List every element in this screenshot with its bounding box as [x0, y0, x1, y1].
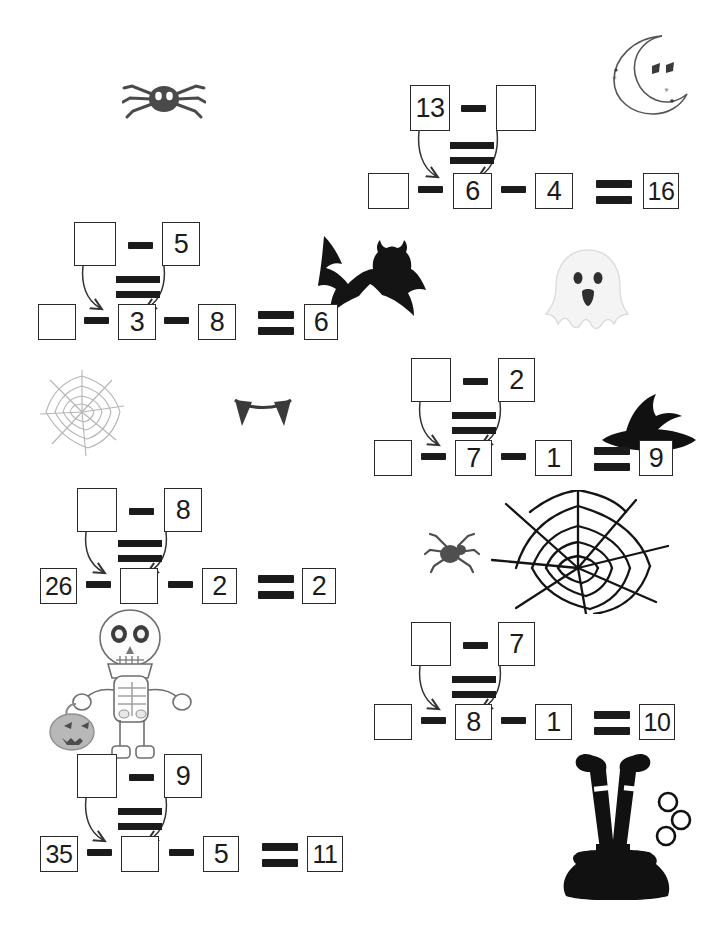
minus-icon	[168, 581, 193, 588]
minus-icon	[128, 242, 153, 249]
problem-5-bottom-third-box[interactable]: 1	[535, 704, 572, 740]
problem-6-top-left-box[interactable]	[77, 754, 117, 798]
fangs-icon	[232, 396, 294, 432]
problem-4-bottom-first-box[interactable]: 26	[40, 568, 77, 604]
problem-1: 13 6 4 16	[368, 84, 678, 209]
equals-icon	[116, 276, 160, 298]
minus-icon	[129, 774, 154, 781]
equals-icon	[596, 180, 632, 204]
equals-icon	[450, 142, 494, 164]
equals-icon	[452, 412, 496, 434]
minus-icon	[463, 642, 488, 649]
minus-icon	[84, 317, 109, 324]
cauldron-icon	[548, 740, 700, 900]
minus-icon	[421, 717, 446, 724]
spider-small-icon	[424, 528, 480, 580]
spider-icon	[122, 72, 206, 124]
problem-6-bottom-third-box[interactable]: 5	[203, 836, 239, 872]
problem-1-top-left-box[interactable]: 13	[410, 85, 450, 131]
problem-6-bottom-first-box[interactable]: 35	[40, 836, 78, 872]
minus-icon	[461, 105, 486, 112]
problem-2-top-right-box[interactable]: 5	[162, 222, 200, 266]
problem-1-top-right-box[interactable]	[496, 85, 536, 131]
problem-2-bottom-third-box[interactable]: 8	[198, 304, 236, 340]
problem-4-bottom-third-box[interactable]: 2	[202, 568, 237, 604]
problem-5-bottom-first-box[interactable]	[374, 704, 412, 740]
problem-2-top-left-box[interactable]	[74, 222, 116, 266]
minus-icon	[463, 378, 488, 385]
equals-icon	[452, 676, 496, 698]
problem-2-result-box[interactable]: 6	[304, 304, 338, 340]
equals-icon	[262, 843, 298, 867]
equals-icon	[594, 447, 630, 471]
problem-6-top-right-box[interactable]: 9	[164, 754, 202, 798]
problem-5-top-right-box[interactable]: 7	[498, 622, 535, 666]
problem-3-top-left-box[interactable]	[411, 358, 451, 402]
problem-5-result-box[interactable]: 10	[639, 704, 675, 740]
problem-3: 2 7 1 9	[374, 358, 674, 476]
problem-2-bottom-first-box[interactable]	[38, 304, 76, 340]
equals-icon	[258, 575, 294, 599]
minus-icon	[418, 186, 443, 193]
problem-3-result-box[interactable]: 9	[639, 440, 673, 476]
minus-icon	[86, 581, 111, 588]
minus-icon	[169, 849, 194, 856]
problem-5-top-left-box[interactable]	[411, 622, 451, 666]
minus-icon	[87, 849, 112, 856]
minus-icon	[164, 317, 189, 324]
problem-3-bottom-middle-box[interactable]: 7	[455, 440, 492, 476]
problem-4-result-box[interactable]: 2	[302, 568, 336, 604]
minus-icon	[501, 453, 526, 460]
problem-3-top-right-box[interactable]: 2	[498, 358, 535, 402]
ghost-icon	[536, 244, 640, 346]
equals-icon	[118, 540, 162, 562]
problem-4: 8 26 2 2	[40, 488, 330, 604]
minus-icon	[501, 186, 526, 193]
minus-icon	[501, 717, 526, 724]
problem-5: 7 8 1 10	[374, 622, 674, 740]
spiderweb-small-icon	[36, 368, 128, 456]
equals-icon	[594, 711, 630, 735]
problem-3-bottom-first-box[interactable]	[374, 440, 412, 476]
worksheet-page: ✳ ✳	[0, 0, 718, 945]
problem-4-top-left-box[interactable]	[77, 488, 117, 532]
problem-1-bottom-first-box[interactable]	[368, 173, 409, 209]
equals-icon	[118, 808, 162, 830]
svg-text:✳: ✳	[612, 75, 617, 81]
problem-1-result-box[interactable]: 16	[643, 173, 679, 209]
skeleton-icon	[48, 604, 200, 760]
problem-4-top-right-box[interactable]: 8	[164, 488, 202, 532]
minus-icon	[129, 508, 154, 515]
problem-6-result-box[interactable]: 11	[307, 836, 343, 872]
problem-1-bottom-third-box[interactable]: 4	[535, 173, 573, 209]
problem-6-bottom-middle-box[interactable]	[121, 836, 159, 872]
equals-icon	[258, 311, 294, 335]
problem-2: 5 3 8 6	[38, 222, 338, 340]
problem-2-bottom-middle-box[interactable]: 3	[118, 304, 156, 340]
problem-1-bottom-middle-box[interactable]: 6	[453, 173, 492, 209]
spiderweb-large-icon	[490, 490, 670, 614]
minus-icon	[421, 453, 446, 460]
problem-6: 9 35 5 11	[40, 754, 335, 872]
problem-4-bottom-middle-box[interactable]	[120, 568, 158, 604]
problem-3-bottom-third-box[interactable]: 1	[535, 440, 572, 476]
problem-5-bottom-middle-box[interactable]: 8	[455, 704, 492, 740]
